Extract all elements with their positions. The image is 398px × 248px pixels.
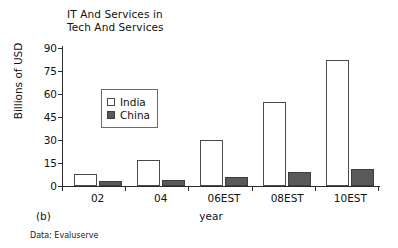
x-tick-label: 02 <box>91 192 104 204</box>
y-tick-mark <box>58 140 63 141</box>
x-tick-mark <box>315 186 316 191</box>
legend-swatch-china-icon <box>107 111 115 119</box>
legend-item-india: India <box>107 96 150 108</box>
bar-india-04 <box>137 160 160 186</box>
legend: India China <box>101 89 158 128</box>
y-tick-label: 60 <box>44 88 57 100</box>
y-tick-mark <box>58 117 63 118</box>
x-tick-label: 10EST <box>334 192 367 204</box>
x-axis-line <box>62 186 380 187</box>
bar-india-10est <box>326 60 349 186</box>
y-tick-label: 15 <box>44 157 57 169</box>
legend-swatch-india-icon <box>107 98 115 106</box>
y-tick-label: 0 <box>50 180 57 192</box>
y-tick-label: 45 <box>44 111 57 123</box>
y-tick-label: 30 <box>44 134 57 146</box>
x-tick-mark <box>188 186 189 191</box>
source-note: Data: Evaluserve <box>30 231 98 240</box>
bar-india-02 <box>74 174 97 186</box>
x-tick-label: 04 <box>154 192 167 204</box>
bar-china-04 <box>162 180 185 186</box>
bar-india-06est <box>200 140 223 186</box>
x-tick-mark <box>252 186 253 191</box>
x-tick-label: 08EST <box>271 192 304 204</box>
panel-label: (b) <box>36 210 51 222</box>
y-tick-label: 75 <box>44 65 57 77</box>
y-tick-label: 90 <box>44 42 57 54</box>
bar-chart-figure: IT And Services in Tech And Services Bil… <box>0 0 398 248</box>
legend-item-china: China <box>107 109 150 121</box>
x-axis-title: year <box>0 210 398 222</box>
bar-china-06est <box>225 177 248 186</box>
y-tick-mark <box>58 163 63 164</box>
chart-title: IT And Services in Tech And Services <box>67 8 164 34</box>
y-tick-mark <box>58 94 63 95</box>
legend-label-china: China <box>120 109 150 121</box>
bar-china-02 <box>99 181 122 186</box>
bar-india-08est <box>263 102 286 186</box>
y-axis-title: Billions of USD <box>12 21 24 141</box>
x-tick-mark <box>378 186 379 191</box>
x-tick-label: 06EST <box>207 192 240 204</box>
bar-china-08est <box>288 172 311 186</box>
y-tick-mark <box>58 71 63 72</box>
y-tick-mark <box>58 48 63 49</box>
legend-label-india: India <box>120 96 146 108</box>
x-tick-mark <box>62 186 63 191</box>
x-tick-mark <box>125 186 126 191</box>
bar-china-10est <box>351 169 374 186</box>
